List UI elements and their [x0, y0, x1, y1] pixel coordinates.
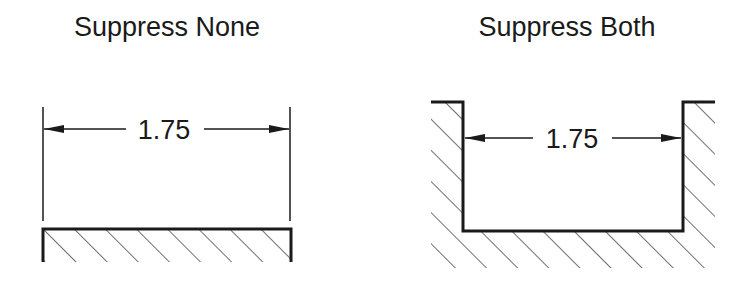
suppress-none-drawing: 1.75 [43, 107, 291, 262]
dimension-diagram: 1.75 1.75 [0, 0, 753, 286]
dimension-value-both: 1.75 [546, 124, 599, 154]
arrowhead-right-icon [269, 125, 289, 133]
arrowhead-left-icon [44, 125, 64, 133]
suppress-both-drawing: 1.75 [431, 102, 715, 268]
hatch-base [43, 229, 291, 262]
part-outline-channel [431, 102, 715, 231]
dimension-value-none: 1.75 [138, 115, 191, 145]
arrowhead-left-icon [465, 134, 485, 142]
arrowhead-right-icon [661, 134, 681, 142]
